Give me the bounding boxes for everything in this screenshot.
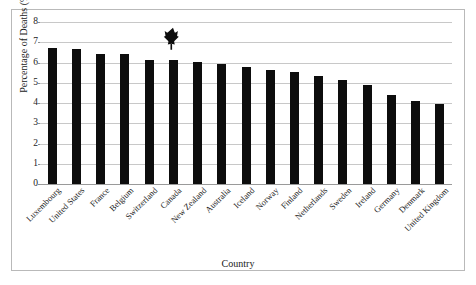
bar [363, 85, 372, 184]
bar [411, 101, 420, 184]
bar [266, 70, 275, 184]
x-axis-title: Country [0, 258, 476, 269]
bar [435, 104, 444, 184]
bar [338, 80, 347, 184]
plot-area [40, 22, 452, 184]
maple-leaf-icon [162, 26, 184, 52]
bar [217, 64, 226, 184]
bar [290, 72, 299, 184]
bar [387, 95, 396, 184]
y-axis-tick-label: 3 [12, 118, 38, 128]
y-axis-tick-label: 0 [12, 179, 38, 189]
bar [242, 67, 251, 184]
x-axis-tick-labels: LuxembourgUnited StatesFranceBelgiumSwit… [40, 186, 452, 256]
y-axis-tick-label: 2 [12, 139, 38, 149]
y-axis-tick-label: 1 [12, 159, 38, 169]
bar [96, 54, 105, 184]
bar [314, 76, 323, 184]
bar [145, 60, 154, 184]
bar [193, 62, 202, 185]
chart-figure: 012345678 Percentage of Deaths (%) Luxem… [0, 0, 476, 285]
bar [48, 48, 57, 184]
y-axis-title: Percentage of Deaths (%) [18, 0, 29, 117]
bar [120, 54, 129, 184]
bar [169, 60, 178, 184]
gridline [40, 184, 452, 185]
bar-series [40, 22, 452, 184]
bar [72, 49, 81, 184]
